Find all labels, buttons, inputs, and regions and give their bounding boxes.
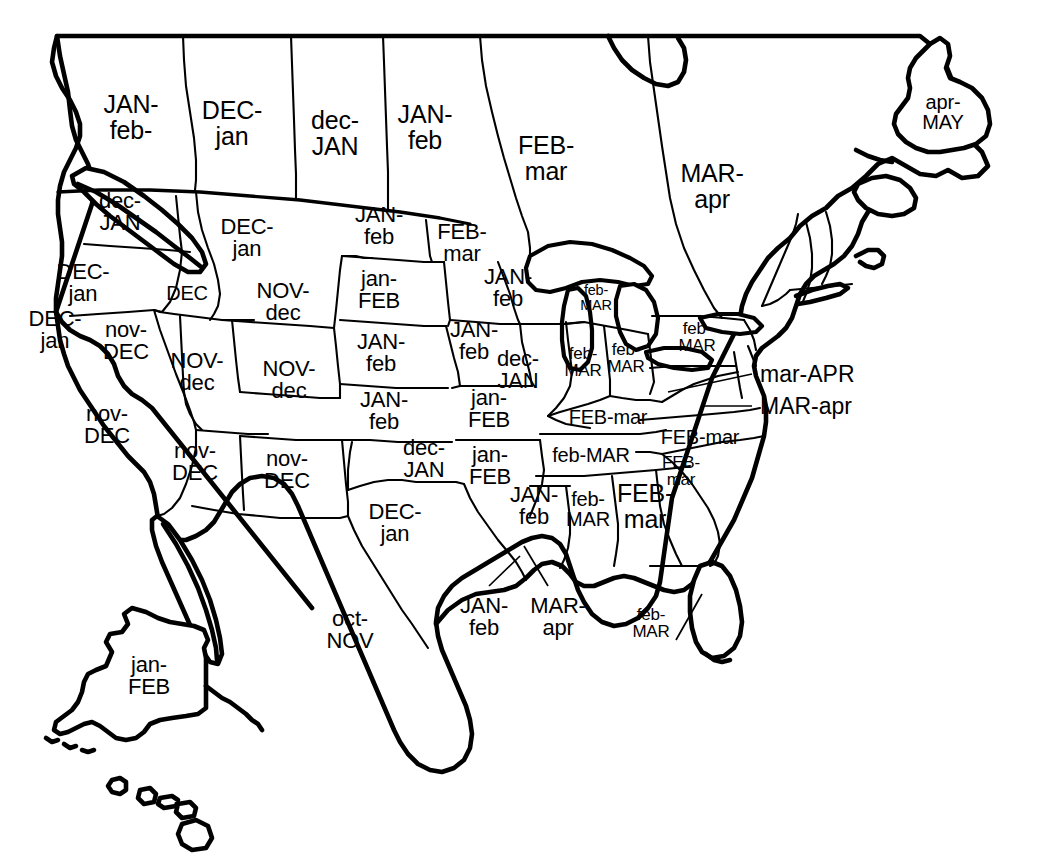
region-label-saskatchewan: dec-JAN [311,108,359,159]
region-label-line: MAR [607,358,644,375]
region-label-alabama: FEB-mar [617,481,673,532]
region-label-indiana: feb-MAR [564,345,601,380]
region-label-line: MAY [922,112,963,132]
region-label-line: FEB- [437,221,486,243]
region-label-line: MAR [564,362,601,379]
callout-label-louisiana-gulf-label: MAR-apr [530,595,585,640]
region-label-tennessee: feb-MAR [552,445,630,465]
florida-peninsula [690,562,742,658]
region-label-line: FEB [469,466,511,488]
region-label-alberta: DEC-jan [202,98,262,149]
region-label-line: dec- [311,108,359,134]
cape-cod [856,250,884,268]
region-label-wyoming: NOV-dec [257,280,310,325]
callout-label-line: MAR- [530,595,585,617]
region-label-line: JAN- [484,266,532,288]
region-label-line: JAN- [357,331,405,353]
region-label-alaska: jan-FEB [128,654,170,699]
region-label-line: feb [484,288,532,310]
region-label-montana: DEC-jan [221,216,274,261]
region-label-line: FEB-mar [569,407,648,427]
region-label-louisiana: JAN-feb [510,484,558,529]
region-label-michigan-upper: feb-MAR [580,283,612,313]
region-label-line: jan- [468,387,510,409]
region-label-line: FEB-mar [661,427,740,447]
region-label-line: JAN- [398,102,453,128]
region-label-line: JAN [99,212,141,234]
region-label-arkansas: jan-FEB [469,444,511,489]
region-label-line: dec- [99,190,141,212]
region-label-line: NOV- [263,358,316,380]
hawaii-oahu [138,788,156,804]
region-label-line: jan- [469,444,511,466]
region-label-line: feb [355,226,403,248]
region-label-line: feb [450,341,498,363]
region-label-line: oct- [326,608,373,630]
chesapeake-bay [734,352,742,398]
callout-label-texas-gulf-label: JAN-feb [460,595,508,640]
region-label-line: nov- [172,440,218,462]
callout-label-line: feb [460,617,508,639]
region-label-line: dec- [497,348,539,370]
region-label-line: FEB- [662,454,700,471]
region-label-wisconsin: JAN-feb [484,266,532,311]
region-label-line: FEB [468,409,510,431]
region-label-ohio: feb-MAR [607,341,644,376]
region-label-line: FEB- [617,481,673,507]
region-label-british-columbia: JAN-feb- [104,92,159,143]
region-label-kansas: JAN-feb [360,389,408,434]
region-label-line: feb- [580,283,612,298]
region-label-nebraska: JAN-feb [357,331,405,376]
region-label-line: nov- [84,403,130,425]
region-label-line: jan- [128,654,170,676]
region-label-oklahoma: dec-JAN [403,437,445,482]
region-label-idaho-south: DEC [166,283,208,303]
region-label-line: JAN [403,459,445,481]
callout-label-florida-label: feb-MAR [632,606,669,641]
nova-scotia [854,176,916,216]
region-label-line: JAN- [510,484,558,506]
region-label-line: JAN- [360,389,408,411]
region-label-line: apr [680,186,743,212]
region-label-line: mar [518,158,574,184]
north-america-month-map: JAN-feb-DEC-jandec-JANJAN-febFEB-marMAR-… [0,0,1044,865]
region-label-line: MAR- [680,161,743,187]
region-label-line: jan [369,523,422,545]
region-label-line: DEC- [57,261,110,283]
region-label-manitoba: JAN-feb [398,102,453,153]
region-label-south-dakota: jan-FEB [358,268,400,313]
region-label-line: jan [29,330,82,352]
region-label-north-dakota: JAN-feb [355,204,403,249]
region-label-line: DEC- [221,216,274,238]
region-label-line: JAN- [104,92,159,118]
region-label-line: DEC- [202,98,262,124]
nh-me-border [822,212,832,284]
region-label-washington: dec-JAN [99,190,141,235]
region-label-line: FEB [358,290,400,312]
region-label-line: NOV- [171,350,224,372]
region-label-line: feb- [566,489,610,509]
region-label-line: jan [57,283,110,305]
region-label-line: feb [398,127,453,153]
region-label-line: feb- [678,320,715,337]
region-label-line: JAN [311,133,359,159]
region-label-quebec: MAR-apr [680,161,743,212]
hawaii-big-island [178,820,212,850]
region-label-line: NOV [326,630,373,652]
hawaii-maui [176,802,196,818]
region-label-mississippi: feb-MAR [566,489,610,530]
alaska-panhandle [206,686,262,730]
callout-label-line: feb- [632,606,669,623]
region-label-line: feb [360,411,408,433]
region-label-line: DEC- [29,308,82,330]
region-label-line: DEC [84,425,130,447]
region-label-oregon: DEC-jan [57,261,110,306]
region-label-line: mar [617,506,673,532]
region-label-minnesota: FEB-mar [437,221,486,266]
region-label-line: FEB [128,676,170,698]
region-label-north-carolina: FEB-mar [661,427,740,447]
region-label-line: JAN- [355,204,403,226]
region-label-line: NOV- [257,280,310,302]
region-label-line: jan- [358,268,400,290]
region-label-california-north: DEC-jan [29,308,82,353]
